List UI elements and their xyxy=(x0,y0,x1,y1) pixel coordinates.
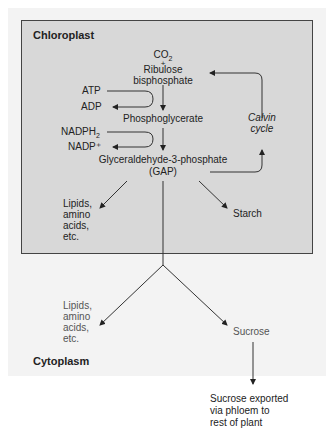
arrow-gap-to-lipids xyxy=(100,181,127,208)
arrow-atp-adp xyxy=(107,91,153,107)
adp-label: ADP xyxy=(81,101,102,113)
nadp-label: NADP⁺ xyxy=(68,141,101,153)
arrow-nadph-nadp xyxy=(107,132,153,147)
export-label: Sucrose exported via phloem to rest of p… xyxy=(210,393,288,429)
arrow-to-cyto-lipids xyxy=(100,265,163,325)
chloroplast-lipids-label: Lipids, amino acids, etc. xyxy=(63,198,92,242)
chloroplast-label: Chloroplast xyxy=(33,29,94,41)
nadph-label: NADPH2 xyxy=(61,126,100,142)
cytoplasm-label: Cytoplasm xyxy=(33,355,89,367)
cytoplasm-lipids-label: Lipids, amino acids, etc. xyxy=(63,300,92,344)
rubp-label-2: bisphosphate xyxy=(123,75,203,87)
arrow-to-sucrose xyxy=(163,265,227,325)
pga-label: Phosphoglycerate xyxy=(113,113,213,125)
calvin-label-2: cycle xyxy=(242,123,282,135)
gap-label-1: Glyceraldehyde-3-phosphate xyxy=(88,154,238,166)
starch-label: Starch xyxy=(233,208,262,220)
arrow-gap-to-starch xyxy=(199,181,227,208)
sucrose-label: Sucrose xyxy=(233,326,270,338)
gap-label-2: (GAP) xyxy=(138,166,188,178)
atp-label: ATP xyxy=(82,85,101,97)
